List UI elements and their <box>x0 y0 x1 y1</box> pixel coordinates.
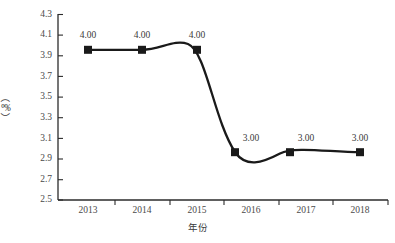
series-line <box>88 43 360 163</box>
data-point-marker <box>356 148 364 156</box>
data-point-marker <box>138 46 146 54</box>
y-axis-ticks <box>58 15 63 201</box>
data-point-marker <box>84 46 92 54</box>
plot-area <box>0 0 395 243</box>
data-point-marker <box>231 148 239 156</box>
data-point-marker <box>286 148 294 156</box>
series-markers <box>84 46 364 156</box>
x-axis-ticks <box>115 200 388 205</box>
chart-figure: （‰） 4.3 4.1 3.9 3.7 3.5 3.3 3.1 2.9 2.7 … <box>0 0 395 243</box>
data-point-marker <box>193 46 201 54</box>
